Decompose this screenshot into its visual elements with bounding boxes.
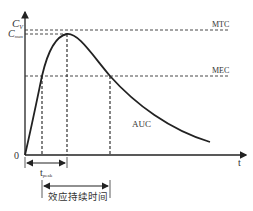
time-axis-label: t — [238, 157, 241, 168]
duration-label: 效应持续时间 — [48, 191, 108, 202]
pk-curve-diagram: CV Cmax MTC MEC AUC 0 t tpeak 效应持续时间 — [0, 0, 253, 211]
mtc-label: MTC — [212, 20, 229, 29]
auc-label: AUC — [132, 119, 151, 129]
concentration-curve — [25, 34, 210, 155]
mec-label: MEC — [212, 66, 229, 75]
origin-label: 0 — [14, 150, 19, 161]
tpeak-label: tpeak — [40, 167, 53, 178]
